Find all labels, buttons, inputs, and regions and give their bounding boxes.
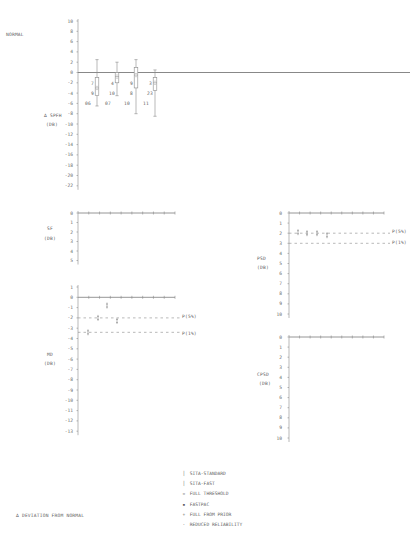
cpsd-tick-label: 10 [266, 436, 282, 441]
md-tick-label: -8 [57, 377, 73, 382]
legend-item-sita-standard: │ SITA-STANDARD [181, 471, 226, 476]
chart-canvas [0, 0, 418, 543]
legend-label: REDUCED RELIABILITY [190, 522, 243, 527]
test-date-label: 07 [105, 101, 111, 106]
psd-tick-label: 3 [266, 241, 282, 246]
psd-tick-label: 4 [266, 251, 282, 256]
sf-tick-label: 3 [57, 239, 73, 244]
test-date-label: 4 [111, 81, 114, 86]
sf-tick-label: 1 [57, 220, 73, 225]
psd-tick-label: 5 [266, 261, 282, 266]
test-date-label: 9 [130, 81, 133, 86]
cpsd-tick-label: 0 [266, 335, 282, 340]
legend-label: FULL THRESHOLD [190, 491, 229, 496]
legend-item-fastpac: ▪ FASTPAC [181, 502, 209, 507]
psd-ylabel-line1: PSD [257, 256, 266, 261]
legend-item-reduced-reliability: · REDUCED RELIABILITY [181, 522, 242, 527]
full-from-prior-symbol-icon: + [181, 512, 187, 517]
md-p5-label: P(5%) [182, 314, 197, 319]
legend-label: FULL FROM PRIOR [190, 512, 232, 517]
psd-tick-label: 10 [266, 312, 282, 317]
test-date-label: 11 [143, 101, 149, 106]
reduced-reliability-symbol-icon: · [181, 522, 187, 527]
md-tick-label: -5 [57, 346, 73, 351]
legend-label: FASTPAC [190, 502, 209, 507]
fastpac-symbol-icon: ▪ [181, 502, 187, 507]
md-tick-label: -12 [57, 418, 73, 423]
md-p1-label: P(1%) [182, 331, 197, 336]
psd-tick-label: 9 [266, 301, 282, 306]
sita-standard-symbol-icon: │ [181, 471, 187, 476]
sf-tick-label: 5 [57, 258, 73, 263]
psd-tick-label: 1 [266, 221, 282, 226]
psd-tick-label: 7 [266, 281, 282, 286]
cpsd-tick-label: 1 [266, 345, 282, 350]
legend-item-full-threshold: ▫ FULL THRESHOLD [181, 491, 229, 496]
test-date-label: 06 [85, 101, 91, 106]
test-date-label: 8 [130, 91, 133, 96]
sf-tick-label: 4 [57, 249, 73, 254]
md-tick-label: -11 [57, 408, 73, 413]
md-tick-label: -6 [57, 357, 73, 362]
sita-fast-symbol-icon: │ [181, 481, 187, 486]
md-tick-label: -4 [57, 336, 73, 341]
psd-tick-label: 2 [266, 231, 282, 236]
legend-item-sita-fast: │ SITA-FAST [181, 481, 215, 486]
test-date-label: 7 [91, 81, 94, 86]
sf-ylabel-line1: SF [47, 226, 53, 231]
legend-item-full-from-prior: + FULL FROM PRIOR [181, 512, 231, 517]
cpsd-tick-label: 6 [266, 395, 282, 400]
cpsd-tick-label: 2 [266, 355, 282, 360]
psd-tick-label: 8 [266, 291, 282, 296]
md-tick-label: -1 [57, 305, 73, 310]
md-tick-label: -10 [57, 398, 73, 403]
md-tick-label: -13 [57, 429, 73, 434]
md-tick-label: -3 [57, 326, 73, 331]
deviation-note: ∆ DEVIATION FROM NORMAL [16, 513, 84, 518]
sf-tick-label: 0 [57, 211, 73, 216]
md-tick-label: -7 [57, 367, 73, 372]
md-tick-label: -2 [57, 315, 73, 320]
md-ylabel-line2: (DB) [44, 361, 56, 366]
psd-p1-label: P(1%) [392, 240, 407, 245]
cpsd-tick-label: 3 [266, 365, 282, 370]
test-date-label: 3 [149, 81, 152, 86]
cpsd-tick-label: 7 [266, 405, 282, 410]
legend-label: SITA-FAST [190, 481, 215, 486]
psd-tick-label: 6 [266, 271, 282, 276]
md-tick-label: -9 [57, 388, 73, 393]
cpsd-tick-label: 4 [266, 375, 282, 380]
legend-label: SITA-STANDARD [190, 471, 226, 476]
cpsd-tick-label: 9 [266, 425, 282, 430]
psd-p5-label: P(5%) [392, 229, 407, 234]
sf-tick-label: 2 [57, 230, 73, 235]
test-date-label: 10 [124, 101, 130, 106]
md-tick-label: 0 [57, 295, 73, 300]
test-date-label: 10 [109, 91, 115, 96]
cpsd-tick-label: 5 [266, 385, 282, 390]
full-threshold-symbol-icon: ▫ [181, 491, 187, 496]
sf-ylabel-line2: (DB) [44, 236, 56, 241]
test-date-label: 9 [91, 91, 94, 96]
cpsd-tick-label: 8 [266, 415, 282, 420]
test-date-label: 23 [147, 91, 153, 96]
psd-tick-label: 0 [266, 211, 282, 216]
md-ylabel-line1: MD [47, 352, 53, 357]
md-tick-label: 1 [57, 285, 73, 290]
